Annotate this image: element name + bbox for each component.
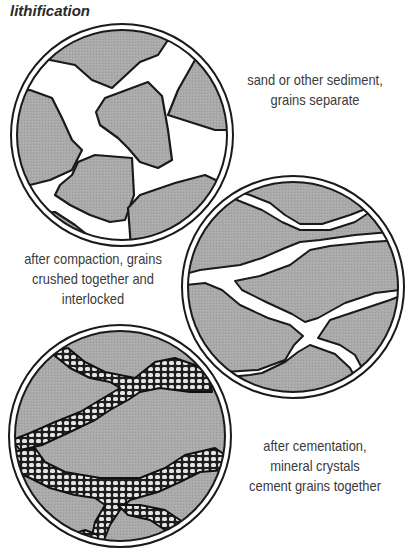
caption-line: sand or other sediment, — [233, 70, 396, 90]
caption-line: crushed together and — [13, 269, 173, 289]
caption-line: cement grains together — [235, 476, 395, 496]
caption-line: grains separate — [233, 90, 396, 110]
stage-compaction-circle — [182, 176, 404, 398]
caption-compaction: after compaction, grains crushed togethe… — [13, 249, 173, 309]
stage-sediment-circle — [10, 20, 240, 260]
caption-cementation: after cementation, mineral crystals ceme… — [235, 436, 395, 496]
caption-line: after cementation, — [235, 436, 395, 456]
caption-line: mineral crystals — [235, 456, 395, 476]
caption-sediment: sand or other sediment, grains separate — [233, 70, 396, 110]
caption-line: interlocked — [13, 289, 173, 309]
caption-line: after compaction, grains — [13, 249, 173, 269]
stage-cementation-circle — [9, 325, 231, 548]
